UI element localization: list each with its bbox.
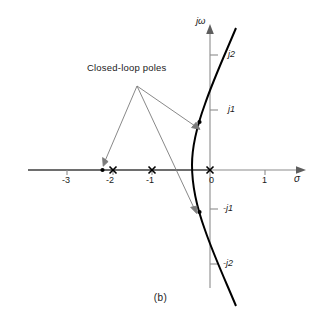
x-tick-label--2: -2 bbox=[106, 176, 114, 185]
closed-loop-poles-label: Closed-loop poles bbox=[87, 63, 166, 73]
y-tick-label-j2: j2 bbox=[228, 50, 235, 59]
x-tick-label-1: 1 bbox=[262, 176, 267, 185]
x-tick-label--3: -3 bbox=[62, 176, 70, 185]
closed-loop-pole-marker-lower bbox=[197, 210, 201, 214]
root-locus-figure bbox=[0, 0, 321, 318]
closed-loop-pole-marker-real bbox=[100, 168, 104, 172]
imaginary-axis-arrowhead bbox=[206, 24, 214, 34]
root-locus-branch-lower bbox=[192, 165, 236, 306]
y-tick-label--j1: -j1 bbox=[223, 204, 233, 213]
y-tick-label--j2: -j2 bbox=[223, 259, 233, 268]
imaginary-axis-label: jω bbox=[196, 16, 206, 26]
closed-loop-pole-marker-upper bbox=[197, 120, 201, 124]
figure-caption: (b) bbox=[0, 292, 321, 303]
annotation-leader-lines bbox=[103, 86, 200, 214]
x-tick-label--1: -1 bbox=[146, 176, 154, 185]
x-tick-label-0: 0 bbox=[209, 176, 214, 185]
y-tick-label-j1: j1 bbox=[228, 105, 235, 114]
real-axis-label: σ bbox=[294, 174, 300, 184]
